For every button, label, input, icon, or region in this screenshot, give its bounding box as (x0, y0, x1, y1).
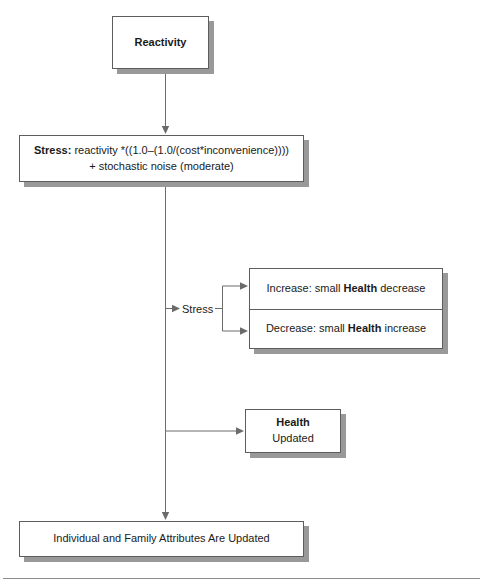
node-attributes-updated: Individual and Family Attributes Are Upd… (19, 521, 304, 557)
stress-formula-keyword: Stress: (34, 144, 71, 156)
health-updated-suffix: Updated (272, 432, 314, 444)
arrowhead-to-decrease (240, 327, 248, 334)
stress-formula-expression: reactivity *((1.0–(1.0/(cost*inconvenien… (71, 144, 289, 156)
flowchart-diagram: Reactivity Stress: reactivity *((1.0–(1.… (0, 0, 483, 587)
node-branch-increase: Increase: small Health decrease (250, 269, 442, 309)
node-branch-increase-text: Increase: small Health decrease (259, 281, 434, 296)
stress-formula-noise-term: + stochastic noise (moderate) (89, 160, 234, 172)
edge-stress-to-increase (215, 286, 243, 309)
node-stress-formula-text: Stress: reactivity *((1.0–(1.0/(cost*inc… (26, 143, 297, 175)
arrowhead-to-health-updated (236, 427, 244, 434)
connector-label-stress: Stress (180, 303, 215, 315)
node-health-updated: Health Updated (245, 409, 341, 453)
node-reactivity-label: Reactivity (127, 35, 195, 51)
branch-increase-bold: Health (344, 282, 378, 294)
arrowhead-to-stress-label (172, 305, 180, 312)
node-stress-formula: Stress: reactivity *((1.0–(1.0/(cost*inc… (19, 135, 304, 182)
edge-stress-to-decrease (215, 309, 243, 332)
node-reactivity: Reactivity (112, 16, 209, 69)
node-branch-decrease: Decrease: small Health increase (250, 309, 442, 349)
health-updated-bold: Health (276, 416, 310, 428)
node-health-updated-text: Health Updated (246, 415, 340, 447)
branch-increase-prefix: Increase: small (267, 282, 344, 294)
bottom-divider (3, 578, 480, 579)
arrowhead-to-stress-formula (162, 126, 169, 134)
branch-decrease-prefix: Decrease: small (266, 322, 348, 334)
node-branch-decrease-text: Decrease: small Health increase (258, 321, 434, 336)
branch-decrease-bold: Health (348, 322, 382, 334)
node-attributes-updated-label: Individual and Family Attributes Are Upd… (45, 531, 277, 547)
node-stress-branch-group: Increase: small Health decrease Decrease… (249, 268, 443, 349)
arrowhead-to-increase (240, 282, 248, 289)
branch-decrease-suffix: increase (381, 322, 426, 334)
arrowhead-to-attributes-updated (162, 512, 169, 520)
branch-increase-suffix: decrease (377, 282, 425, 294)
